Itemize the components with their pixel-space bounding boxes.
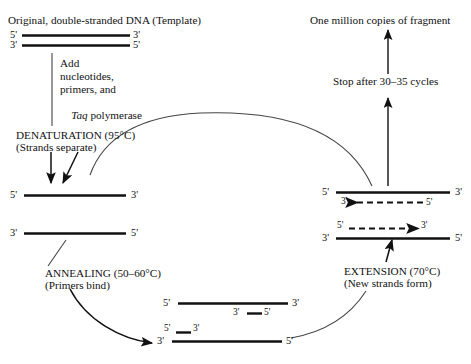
separated-top-right-end: 3' xyxy=(131,189,138,201)
template-duplex-strands xyxy=(22,36,130,46)
pcr-diagram-canvas: Original, double-stranded DNA (Template)… xyxy=(0,0,471,364)
template-bottom-left-end: 3' xyxy=(10,39,17,51)
annealed-top-primer-left: 3' xyxy=(233,307,239,318)
extension-strand-top xyxy=(336,193,450,203)
annealed-top-left-end: 5' xyxy=(163,297,170,309)
annealed-strand-bottom xyxy=(172,333,282,342)
annealed-top-primer-right: 5' xyxy=(264,307,270,318)
extension-top-arrow-head-label: 3' xyxy=(341,196,347,207)
add-reagents-line-2: nucleotides, xyxy=(60,70,114,83)
denaturation-split-arrows xyxy=(51,152,78,183)
extension-bottom-arrow-tail-label: 5' xyxy=(337,220,343,231)
denaturation-subtitle: (Strands separate) xyxy=(16,141,96,154)
extension-pointer-arrow xyxy=(386,240,392,262)
template-bottom-right-end: 5' xyxy=(133,39,140,51)
extension-bottom-arrow-head-label: 3' xyxy=(421,220,427,231)
annealed-top-right-end: 3' xyxy=(292,297,299,309)
annealing-subtitle: (Primers bind) xyxy=(45,279,110,292)
polymerase-label: polymerase xyxy=(88,109,142,121)
separated-bottom-right-end: 5' xyxy=(131,227,138,239)
separated-bottom-left-end: 3' xyxy=(10,227,17,239)
extension-strand-bottom xyxy=(336,229,450,239)
extension-subtitle: (New strands form) xyxy=(344,277,432,290)
annealed-bottom-primer-left: 5' xyxy=(164,323,170,334)
separated-top-left-end: 5' xyxy=(10,189,17,201)
add-reagents-line-1: Add xyxy=(60,57,79,70)
add-reagents-line-3: primers, and xyxy=(60,83,116,96)
annealing-curved-arrow xyxy=(70,289,152,343)
taq-italic-label: Taq xyxy=(71,109,87,121)
product-heading: One million copies of fragment xyxy=(310,14,450,27)
annealed-bottom-left-end: 3' xyxy=(157,335,164,347)
extension-bottom-left-end: 3' xyxy=(322,232,329,244)
template-heading: Original, double-stranded DNA (Template) xyxy=(8,14,201,27)
extension-top-right-end: 3' xyxy=(455,186,462,198)
extension-top-left-end: 5' xyxy=(322,186,329,198)
annealed-bottom-primer-right: 3' xyxy=(193,323,199,334)
extension-top-arrow-tail-label: 5' xyxy=(426,197,432,208)
extension-bottom-right-end: 5' xyxy=(455,232,462,244)
stop-cycles-label: Stop after 30–35 cycles xyxy=(333,75,438,88)
flow-separated-to-annealing xyxy=(48,240,66,266)
annealed-bottom-right-end: 5' xyxy=(286,335,293,347)
flow-annealing-to-extension xyxy=(291,291,366,338)
